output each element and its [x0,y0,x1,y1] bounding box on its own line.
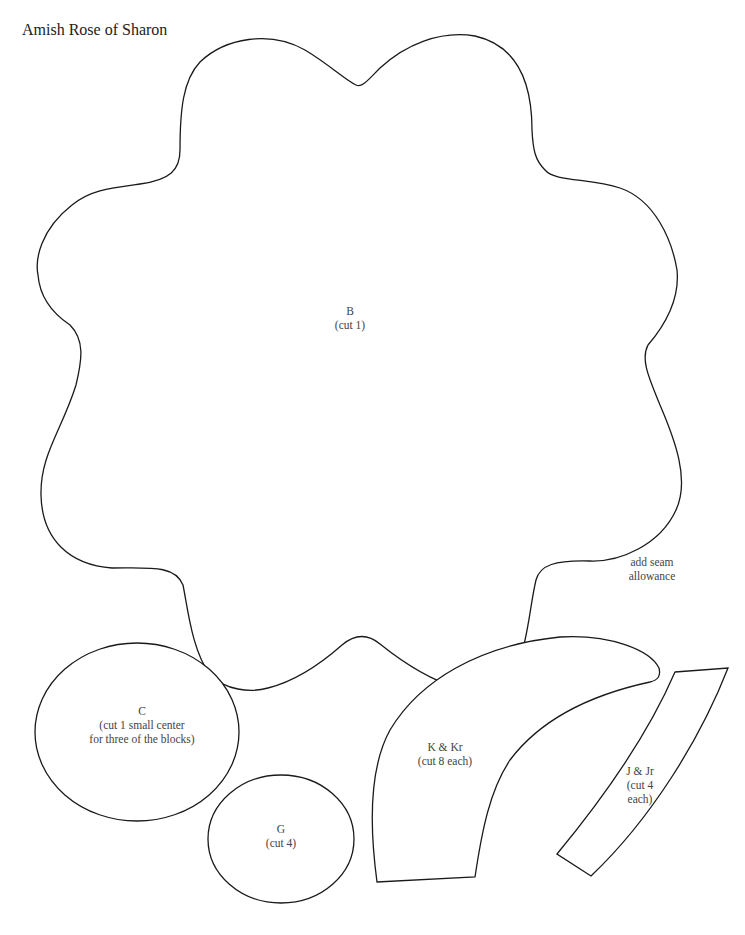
piece-g-letter: G [236,822,326,836]
piece-k-label: K & Kr (cut 8 each) [395,740,495,768]
piece-j-instruction-line1: (cut 4 [610,778,670,792]
piece-b-flower-outline [37,35,681,691]
piece-c-instruction-line1: (cut 1 small center [57,718,227,732]
piece-c-label: C (cut 1 small center for three of the b… [57,704,227,746]
piece-g-label: G (cut 4) [236,822,326,850]
piece-j-letter: J & Jr [610,764,670,778]
piece-b-instruction: (cut 1) [305,318,395,332]
piece-c-instruction-line2: for three of the blocks) [57,732,227,746]
seam-note-line2: allowance [592,569,712,583]
piece-k-instruction: (cut 8 each) [395,754,495,768]
seam-allowance-note: add seam allowance [592,555,712,583]
piece-b-label: B (cut 1) [305,304,395,332]
seam-note-line1: add seam [592,555,712,569]
piece-g-instruction: (cut 4) [236,836,326,850]
piece-j-instruction-line2: each) [610,792,670,806]
piece-k-letter: K & Kr [395,740,495,754]
piece-j-label: J & Jr (cut 4 each) [610,764,670,806]
piece-b-letter: B [305,304,395,318]
piece-c-letter: C [57,704,227,718]
